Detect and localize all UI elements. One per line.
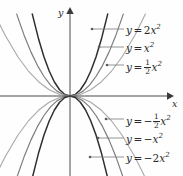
leader-endpoint-label-neg-x2: [97, 137, 100, 140]
leader-endpoint-label-neg-2x2: [89, 156, 92, 159]
curve-y-1-2-x-2: [0, 14, 145, 96]
label-2x2: y=2x2: [126, 24, 161, 35]
label-neg-half-x2: y=−12x2: [126, 113, 171, 129]
y-axis-arrowhead: [66, 7, 73, 14]
leader-line-group: [89, 28, 124, 159]
label-half-x2: y=12x2: [126, 59, 162, 75]
leader-endpoint-label-neg-half-x2: [105, 118, 108, 121]
leader-endpoint-label-2x2: [91, 28, 94, 31]
label-x2: y=x2: [126, 42, 154, 53]
leader-endpoint-label-x2: [98, 46, 101, 49]
curve-group: [0, 14, 145, 176]
label-neg-x2: y=−x2: [126, 133, 163, 144]
label-neg-2x2: y=−2x2: [126, 152, 170, 163]
y-axis-label: y: [58, 8, 63, 18]
leader-endpoint-label-half-x2: [106, 64, 109, 67]
parabola-family-figure: y x y=2x2y=x2y=12x2y=−12x2y=−x2y=−2x2: [0, 0, 183, 176]
x-axis-label: x: [172, 99, 177, 109]
